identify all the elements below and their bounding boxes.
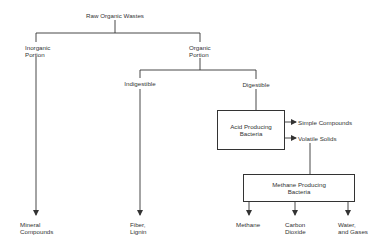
node-organic-portion: Organic Portion xyxy=(189,44,211,58)
node-indigestible: Indigestible xyxy=(115,80,165,87)
node-volatile-solids: Volatile Solids xyxy=(298,135,337,142)
acid-producing-bacteria-label: Acid Producing Bacteria xyxy=(230,123,272,137)
node-methane: Methane xyxy=(236,221,260,228)
flowchart: Raw Organic Wastes Inorganic Portion Org… xyxy=(0,0,386,249)
methane-producing-bacteria-box: Methane Producing Bacteria xyxy=(243,174,355,202)
node-inorganic-portion: Inorganic Portion xyxy=(25,44,50,58)
node-water-and-gases: Water, and Gases xyxy=(338,221,368,235)
node-simple-compounds: Simple Compounds xyxy=(298,119,352,126)
node-carbon-dioxide: Carbon Dioxide xyxy=(285,221,306,235)
node-fiber-lignin: Fiber, Lignin xyxy=(130,221,147,235)
node-mineral-compounds: Mineral Compounds xyxy=(20,221,53,235)
node-raw-organic-wastes: Raw Organic Wastes xyxy=(75,12,155,19)
node-digestible: Digestible xyxy=(236,81,276,88)
acid-producing-bacteria-box: Acid Producing Bacteria xyxy=(217,110,285,150)
methane-producing-bacteria-label: Methane Producing Bacteria xyxy=(272,181,326,195)
